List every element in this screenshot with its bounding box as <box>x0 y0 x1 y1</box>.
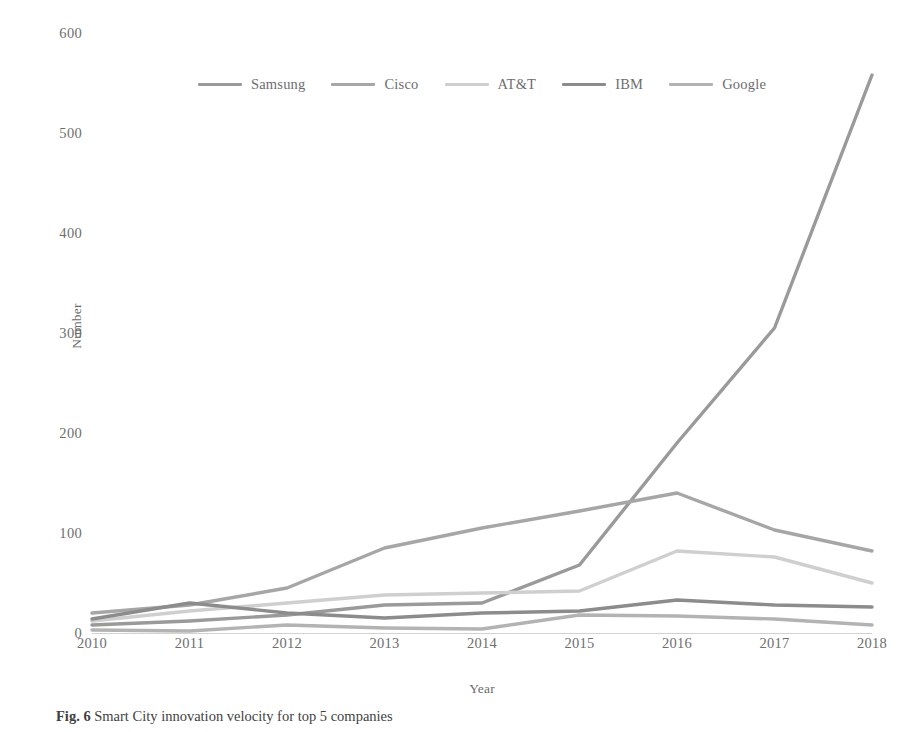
chart-line-samsung <box>92 75 872 625</box>
x-axis-tick: 2011 <box>175 635 204 652</box>
figure-caption-text: Smart City innovation velocity for top 5… <box>94 708 392 724</box>
chart-line-at-t <box>92 551 872 621</box>
figure-caption: Fig. 6 Smart City innovation velocity fo… <box>56 707 896 725</box>
y-axis-tick: 400 <box>59 225 82 242</box>
x-axis-title: Year <box>92 681 872 697</box>
x-axis-tick: 2010 <box>77 635 107 652</box>
y-axis-tick: 500 <box>59 125 82 142</box>
chart-line-cisco <box>92 493 872 613</box>
figure-number: Fig. 6 <box>56 708 91 724</box>
y-axis-tick: 600 <box>59 25 82 42</box>
x-axis-tick: 2017 <box>760 635 790 652</box>
y-axis-tick: 300 <box>59 325 82 342</box>
y-axis-tick: 100 <box>59 525 82 542</box>
x-axis-tick: 2016 <box>662 635 692 652</box>
chart-plot-area: Number 0100200300400500600 2010201120122… <box>92 33 872 633</box>
chart-line-google <box>92 615 872 631</box>
x-axis-tick: 2012 <box>272 635 302 652</box>
x-axis-tick: 2018 <box>857 635 887 652</box>
x-axis-line <box>92 633 872 634</box>
x-axis-tick: 2014 <box>467 635 497 652</box>
figure-container: Number 0100200300400500600 2010201120122… <box>0 0 917 732</box>
x-axis-tick: 2013 <box>370 635 400 652</box>
y-axis-tick: 200 <box>59 425 82 442</box>
chart-lines <box>92 33 872 633</box>
x-axis-tick: 2015 <box>565 635 595 652</box>
